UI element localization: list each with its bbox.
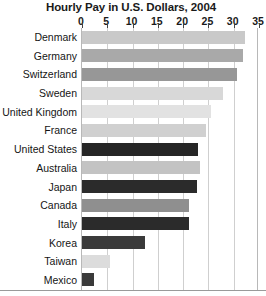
category-label-canada: Canada: [40, 196, 77, 215]
bottom-divider: [0, 290, 266, 291]
category-label-japan: Japan: [48, 178, 77, 197]
bar-italy: [82, 217, 189, 230]
bar-united-states: [82, 143, 198, 156]
x-tick-label-30: 30: [227, 15, 239, 27]
bar-row: Mexico: [0, 271, 266, 290]
category-label-sweden: Sweden: [39, 84, 77, 103]
bar-germany: [82, 49, 243, 62]
x-tick-label-35: 35: [252, 15, 264, 27]
category-label-switzerland: Switzerland: [23, 65, 77, 84]
category-label-taiwan: Taiwan: [44, 252, 77, 271]
bar-row: Canada: [0, 196, 266, 215]
bar-row: Korea: [0, 234, 266, 253]
bar-switzerland: [82, 68, 237, 81]
category-label-denmark: Denmark: [34, 28, 77, 47]
bar-taiwan: [82, 255, 110, 268]
bar-row: Taiwan: [0, 252, 266, 271]
category-label-mexico: Mexico: [44, 271, 77, 290]
bar-australia: [82, 161, 200, 174]
bar-row: Switzerland: [0, 65, 266, 84]
bar-row: Japan: [0, 178, 266, 197]
category-label-korea: Korea: [49, 234, 77, 253]
category-label-italy: Italy: [58, 215, 77, 234]
page-title: Hourly Pay in U.S. Dollars, 2004: [0, 1, 262, 13]
category-label-united-kingdom: United Kingdom: [2, 103, 77, 122]
bar-mexico: [82, 273, 94, 286]
category-label-germany: Germany: [34, 47, 77, 66]
x-tick-label-0: 0: [78, 15, 84, 27]
bar-france: [82, 124, 206, 137]
x-tick-label-15: 15: [151, 15, 163, 27]
hourly-pay-bar-chart: Hourly Pay in U.S. Dollars, 2004 0510152…: [0, 0, 266, 296]
bar-row: Germany: [0, 47, 266, 66]
x-tick-label-20: 20: [176, 15, 188, 27]
x-tick-label-10: 10: [126, 15, 138, 27]
category-label-united-states: United States: [14, 140, 77, 159]
bar-denmark: [82, 31, 245, 44]
bar-japan: [82, 180, 197, 193]
bar-row: United States: [0, 140, 266, 159]
bar-korea: [82, 236, 145, 249]
bar-row: France: [0, 121, 266, 140]
bar-row: Sweden: [0, 84, 266, 103]
bar-row: Australia: [0, 159, 266, 178]
category-label-france: France: [44, 121, 77, 140]
x-tick-label-25: 25: [202, 15, 214, 27]
bar-rows: DenmarkGermanySwitzerlandSwedenUnited Ki…: [0, 28, 266, 290]
bar-sweden: [82, 87, 223, 100]
bar-row: United Kingdom: [0, 103, 266, 122]
bar-united-kingdom: [82, 105, 211, 118]
x-tick-label-5: 5: [103, 15, 109, 27]
category-label-australia: Australia: [36, 159, 77, 178]
bar-row: Italy: [0, 215, 266, 234]
bar-canada: [82, 199, 189, 212]
bar-row: Denmark: [0, 28, 266, 47]
